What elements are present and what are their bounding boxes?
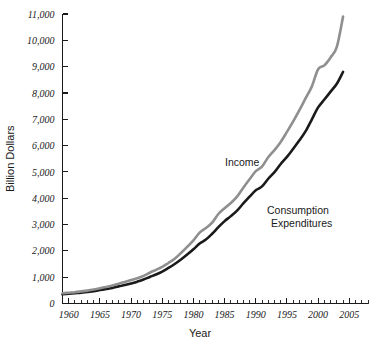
y-axis-tick-label: 3,000	[31, 219, 55, 230]
y-axis-tick-label: 2,000	[32, 245, 55, 256]
y-axis-tick-label-group: 01,0002,0003,0004,0005,0006,0007,0008,00…	[27, 9, 55, 310]
x-axis-tick-label: 1960	[59, 309, 79, 320]
y-axis-tick-label: 9,000	[32, 61, 55, 72]
y-axis-tick-label: 1,000	[32, 272, 55, 283]
y-axis-tick-label: 4,000	[32, 193, 55, 204]
x-axis-tick-label: 1965	[90, 309, 110, 320]
x-axis-tick-label: 1970	[121, 309, 141, 320]
y-axis-tick-label: 6,000	[32, 140, 55, 151]
x-axis-title: Year	[189, 327, 212, 339]
y-axis-tick-label: 10,000	[27, 35, 55, 46]
x-axis-tick-label-group: 1960196519701975198019851990199520002005	[59, 309, 360, 320]
x-axis-tick-label: 1980	[183, 309, 203, 320]
y-axis-title: Billion Dollars	[4, 125, 16, 192]
series-line-consumption-expenditures	[63, 17, 344, 294]
series-annotation-consumption-line2: Expenditures	[271, 217, 332, 229]
y-axis-tick-mark-group	[63, 14, 68, 304]
y-axis-tick-label: 11,000	[28, 9, 55, 20]
x-axis-tick-label: 2005	[339, 309, 359, 320]
x-axis-tick-label: 1990	[246, 309, 266, 320]
x-axis-tick-label: 1975	[152, 309, 172, 320]
y-axis-tick-label: 0	[50, 298, 55, 309]
line-chart-figure: 01,0002,0003,0004,0005,0006,0007,0008,00…	[0, 0, 376, 344]
x-axis-tick-label: 1985	[215, 309, 235, 320]
x-axis-tick-label: 1995	[277, 309, 297, 320]
x-axis-tick-label: 2000	[308, 309, 328, 320]
x-axis-major-tick-group	[69, 298, 350, 304]
chart-canvas: 01,0002,0003,0004,0005,0006,0007,0008,00…	[0, 0, 376, 344]
series-annotation-consumption-line1: Consumption	[267, 204, 329, 216]
y-axis-tick-label: 7,000	[32, 114, 55, 125]
y-axis-tick-label: 5,000	[32, 167, 55, 178]
y-axis-tick-label: 8,000	[32, 88, 55, 99]
series-annotation-income: Income	[225, 156, 260, 168]
